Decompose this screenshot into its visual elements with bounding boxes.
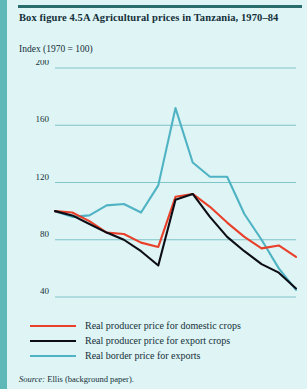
chart-legend: Real producer price for domestic crops R… (30, 318, 302, 363)
legend-swatch-border (30, 355, 76, 357)
series-line (55, 194, 296, 288)
legend-label-border: Real border price for exports (85, 350, 201, 361)
y-axis-tick-label: 160 (36, 114, 50, 124)
line-chart-svg: 40801201602001970197519801984 (19, 60, 297, 300)
y-axis-tick-label: 200 (36, 60, 50, 67)
legend-swatch-export (30, 340, 76, 342)
title-top-rule (18, 5, 302, 8)
y-axis-tick-label: 80 (40, 229, 50, 239)
page-left-accent-bar (0, 0, 7, 389)
legend-swatch-domestic (30, 325, 76, 327)
figure-title: Box figure 4.5A Agricultural prices in T… (19, 12, 294, 25)
legend-item-border: Real border price for exports (30, 348, 302, 363)
legend-label-domestic: Real producer price for domestic crops (85, 320, 241, 331)
legend-item-export: Real producer price for export crops (30, 333, 302, 348)
y-axis-tick-label: 40 (40, 286, 50, 296)
legend-item-domestic: Real producer price for domestic crops (30, 318, 302, 333)
chart-area: 40801201602001970197519801984 (19, 60, 297, 300)
source-note: Source: Ellis (background paper). (19, 374, 134, 384)
y-axis-tick-label: 120 (36, 172, 50, 182)
source-text: Ellis (background paper). (45, 374, 134, 384)
legend-label-export: Real producer price for export crops (85, 335, 230, 346)
index-note: Index (1970 = 100) (19, 44, 93, 54)
source-label: Source: (19, 374, 45, 384)
